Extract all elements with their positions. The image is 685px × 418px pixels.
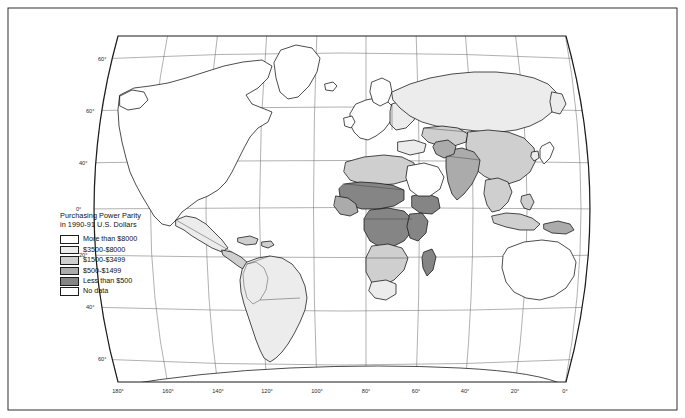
svg-text:40°: 40° <box>461 388 469 394</box>
svg-text:20°: 20° <box>511 388 519 394</box>
legend-title-line2: in 1990-91 U.S. Dollars <box>60 220 184 229</box>
legend-item: No data <box>60 287 184 297</box>
svg-text:120°: 120° <box>261 388 273 394</box>
legend-title-line1: Purchasing Power Parity <box>60 211 184 220</box>
svg-text:0°: 0° <box>562 388 567 394</box>
legend-item: $1500-$3499 <box>60 255 184 265</box>
legend-swatch-no-data <box>60 287 79 296</box>
svg-text:100°: 100° <box>311 388 323 394</box>
legend-label-less-than-500: Less than $500 <box>83 277 132 286</box>
region-north-africa <box>344 155 416 185</box>
svg-text:60°: 60° <box>86 108 94 114</box>
legend-item: $500-$1499 <box>60 266 184 276</box>
legend-item: $3500-$8000 <box>60 245 184 255</box>
legend-swatch-more-than-8000 <box>60 235 79 244</box>
svg-text:80°: 80° <box>362 388 370 394</box>
map-canvas: 180° 160° 140° 120° 100° 80° 60° 40° 20°… <box>0 0 685 418</box>
svg-text:40°: 40° <box>86 304 94 310</box>
legend-item: More than $8000 <box>60 235 184 245</box>
svg-text:180°: 180° <box>112 388 124 394</box>
legend-label-no-data: No data <box>83 287 108 296</box>
legend-label-500-1499: $500-$1499 <box>83 267 121 276</box>
legend-swatch-1500-3499 <box>60 256 79 265</box>
region-turkey <box>398 140 426 155</box>
longitude-tick-labels: 180° 160° 140° 120° 100° 80° 60° 40° 20°… <box>112 388 567 394</box>
legend-label-more-than-8000: More than $8000 <box>83 235 137 244</box>
legend-swatch-500-1499 <box>60 267 79 276</box>
svg-text:60°: 60° <box>98 56 106 62</box>
svg-text:60°: 60° <box>98 356 106 362</box>
legend-label-3500-8000: $3500-$8000 <box>83 246 125 255</box>
legend-item-list: More than $8000 $3500-$8000 $1500-$3499 … <box>60 235 184 297</box>
legend-label-1500-3499: $1500-$3499 <box>83 256 125 265</box>
legend-item: Less than $500 <box>60 276 184 286</box>
svg-text:40°: 40° <box>79 160 87 166</box>
region-new-zealand <box>589 287 602 310</box>
legend-swatch-3500-8000 <box>60 246 79 255</box>
legend-swatch-less-than-500 <box>60 277 79 286</box>
svg-text:60°: 60° <box>412 388 420 394</box>
svg-text:140°: 140° <box>212 388 224 394</box>
svg-text:160°: 160° <box>162 388 174 394</box>
world-map-figure: 180° 160° 140° 120° 100° 80° 60° 40° 20°… <box>0 0 685 418</box>
map-legend: Purchasing Power Parity in 1990-91 U.S. … <box>60 211 184 297</box>
